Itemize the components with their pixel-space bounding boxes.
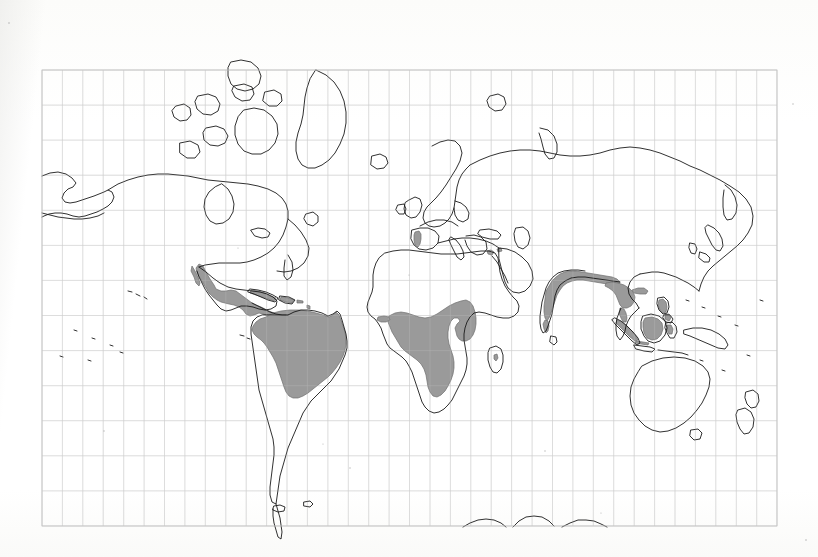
shaded-region-sulawesi bbox=[667, 325, 673, 334]
coastline-italy bbox=[449, 237, 464, 260]
coastline-mediterranean-north bbox=[438, 238, 499, 248]
shaded-region-borneo bbox=[643, 317, 663, 340]
coastline-antarctic-peninsula bbox=[273, 504, 282, 539]
coastline-eurasia-north bbox=[470, 147, 753, 291]
coastline-tasmania bbox=[690, 429, 702, 440]
shaded-region-iberia bbox=[414, 231, 421, 247]
coastline-arctic-isles-4 bbox=[232, 84, 254, 101]
coastline-florida bbox=[284, 255, 293, 280]
shaded-region-indochina bbox=[605, 282, 635, 308]
coastline-arabia bbox=[499, 248, 533, 293]
shaded-region-northern-south-america bbox=[252, 310, 346, 398]
figure-page: World distribution map bbox=[0, 0, 818, 557]
coastline-british-isles bbox=[404, 197, 422, 218]
coastline-svalbard bbox=[487, 94, 506, 111]
coastline-baltic bbox=[454, 201, 469, 222]
coastline-japan-south bbox=[699, 252, 710, 262]
coastline-newfoundland bbox=[304, 212, 318, 226]
shaded-region-puerto-rico bbox=[297, 300, 303, 303]
shaded-region-west-africa-coast bbox=[377, 316, 390, 322]
coastline-java bbox=[634, 345, 655, 352]
coastline-korea bbox=[689, 243, 697, 254]
coastline-sri-lanka bbox=[550, 336, 557, 345]
coastline-great-lakes bbox=[251, 228, 270, 238]
coastline-hudson-bay bbox=[204, 184, 234, 224]
coastline-greenland bbox=[296, 70, 346, 168]
coastline-canada-mainland bbox=[108, 174, 288, 267]
coastline-tierra-del-fuego bbox=[273, 505, 285, 512]
graticule-overlay bbox=[42, 70, 777, 526]
coastline-novaya-zemlya bbox=[539, 128, 557, 159]
coastline-kamchatka bbox=[723, 185, 737, 220]
coastline-arctic-isles-1 bbox=[195, 94, 220, 115]
coastline-ireland bbox=[396, 204, 406, 214]
shaded-region-sub-saharan-africa bbox=[388, 300, 476, 397]
coastline-antarctica bbox=[463, 516, 607, 527]
coastline-japan bbox=[705, 225, 723, 251]
coastline-ellesmere bbox=[228, 60, 261, 91]
coastline-france-lowlands bbox=[420, 220, 458, 226]
coastline-new-guinea bbox=[684, 328, 728, 349]
coastline-baffin bbox=[235, 108, 278, 154]
coastline-arctic-isles-5 bbox=[263, 90, 282, 106]
world-distribution-map bbox=[0, 0, 818, 557]
shaded-region-madagascar-sliver bbox=[494, 354, 498, 361]
coastline-arctic-isles-3 bbox=[203, 126, 228, 146]
coastline-arctic-isles-2 bbox=[172, 104, 191, 121]
coastline-arctic-isles-6 bbox=[180, 141, 200, 158]
scan-speckle bbox=[8, 22, 807, 541]
coastline-falklands bbox=[304, 501, 313, 507]
coastline-china-east bbox=[640, 272, 699, 291]
coastline-galapagos bbox=[240, 335, 250, 339]
coastline-iceland bbox=[371, 154, 388, 169]
